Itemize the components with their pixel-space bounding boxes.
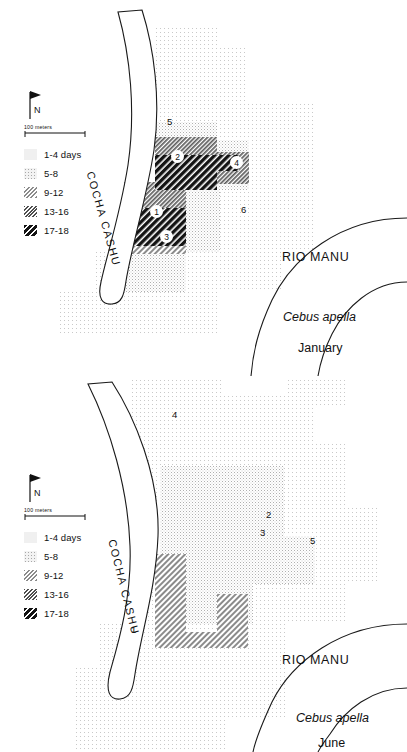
legend-label-9-12-june: 9-12 (44, 570, 63, 581)
legend-label-9-12: 9-12 (44, 187, 63, 198)
legend-swatch-5-8-june (24, 551, 37, 562)
legend-label-1-4-days-june: 1-4 days (44, 532, 81, 543)
legend-item-5-8-january: 5-8 (24, 165, 86, 181)
map-marker-6-january: 6 (241, 204, 246, 215)
map-marker-4-january: 4 (230, 156, 243, 169)
legend-swatch-9-12-june (24, 570, 37, 581)
legend-swatch-13-16-june (24, 589, 37, 600)
map-marker-1-june: 1 (131, 624, 136, 635)
legend-item-1-4-days-june: 1-4 days (24, 529, 86, 545)
legend-item-17-18-january: 17-18 (24, 222, 86, 238)
scale-bar-january (24, 131, 86, 138)
legend-item-9-12-june: 9-12 (24, 567, 86, 583)
legend-swatch-5-8 (24, 168, 37, 179)
north-arrow-january (24, 88, 58, 122)
legend-swatch-17-18-june (24, 608, 37, 619)
species-label-june: Cebus apella (296, 711, 369, 725)
map-marker-5-june: 5 (310, 535, 315, 546)
legend-label-17-18: 17-18 (44, 225, 69, 236)
figure-root: COCHA CASHU RIO MANU Cebus apella Januar… (0, 0, 407, 752)
panel-june: COCHA CASHU RIO MANU Cebus apella June 4… (0, 376, 407, 752)
river-label-june: RIO MANU (282, 653, 349, 667)
legend-item-1-4-days-january: 1-4 days (24, 146, 86, 162)
legend-label-5-8: 5-8 (44, 168, 58, 179)
legend-label-5-8-june: 5-8 (44, 551, 58, 562)
species-label-january: Cebus apella (283, 310, 356, 324)
legend-swatch-13-16 (24, 206, 37, 217)
legend-label-17-18-june: 17-18 (44, 608, 69, 619)
legend-item-17-18-june: 17-18 (24, 605, 86, 621)
map-marker-4-june: 4 (172, 409, 177, 420)
scale-label-january: 100 meters (24, 124, 86, 130)
month-label-january: January (298, 341, 342, 355)
legend-item-13-16-january: 13-16 (24, 203, 86, 219)
map-marker-2-june: 2 (266, 509, 271, 520)
map-marker-3-june: 3 (260, 527, 265, 538)
north-arrow-june (24, 471, 58, 505)
legend-swatch-1-4-days (24, 149, 37, 160)
legend-label-13-16-june: 13-16 (44, 589, 69, 600)
north-label-january: N (34, 105, 41, 115)
legend-january: N 100 meters 1-4 days 5-8 9-12 13- (24, 88, 86, 241)
map-marker-3-january: 3 (160, 230, 173, 243)
legend-item-5-8-june: 5-8 (24, 548, 86, 564)
legend-item-9-12-january: 9-12 (24, 184, 86, 200)
scale-label-june: 100 meters (24, 507, 86, 513)
legend-swatch-17-18 (24, 225, 37, 236)
legend-item-13-16-june: 13-16 (24, 586, 86, 602)
map-marker-5-january: 5 (167, 116, 172, 127)
rio-manu-bank-inner-january (318, 282, 407, 376)
legend-swatch-9-12 (24, 187, 37, 198)
scale-bar-june (24, 514, 86, 521)
legend-label-1-4-days: 1-4 days (44, 149, 81, 160)
panel-january: COCHA CASHU RIO MANU Cebus apella Januar… (0, 0, 407, 376)
legend-swatch-1-4-days-june (24, 532, 37, 543)
river-label-january: RIO MANU (282, 250, 349, 264)
month-label-june: June (318, 736, 345, 750)
map-marker-1-january: 1 (150, 205, 163, 218)
legend-label-13-16: 13-16 (44, 206, 69, 217)
legend-june: N 100 meters 1-4 days 5-8 9-12 13- (24, 471, 86, 624)
north-label-june: N (34, 488, 41, 498)
map-marker-2-january: 2 (171, 150, 184, 163)
